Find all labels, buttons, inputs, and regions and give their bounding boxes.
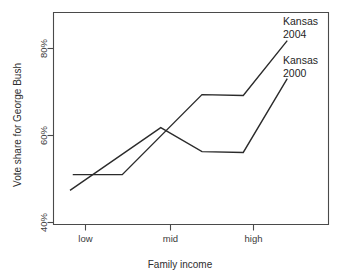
line-chart: 80% 60% 40% low mid high Family income V…	[0, 0, 349, 278]
x-tick-label-mid: mid	[163, 233, 178, 244]
chart-container: 80% 60% 40% low mid high Family income V…	[0, 0, 349, 278]
y-tick-label-40: 40%	[38, 212, 49, 232]
kansas-2000-label-line1: Kansas	[283, 54, 318, 66]
series-line-kansas-2004	[73, 41, 288, 175]
kansas-2000-label-line2: 2000	[283, 67, 307, 79]
plot-frame	[54, 13, 329, 225]
x-axis-title: Family income	[148, 259, 213, 270]
y-tick-label-80: 80%	[38, 38, 49, 58]
y-axis-title: Vote share for George Bush	[12, 63, 23, 187]
y-tick-label-60: 60%	[38, 125, 49, 145]
x-tick-label-high: high	[245, 233, 263, 244]
series-line-kansas-2000	[70, 79, 287, 191]
kansas-2004-label-line1: Kansas	[283, 15, 318, 27]
x-tick-label-low: low	[78, 233, 92, 244]
kansas-2004-label-line2: 2004	[283, 28, 307, 40]
